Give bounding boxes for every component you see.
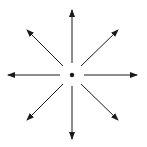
- center-point: [70, 73, 74, 77]
- arrow-up-left: [27, 30, 63, 66]
- radial-arrows-diagram: [0, 0, 147, 147]
- arrow-down-right: [81, 84, 118, 120]
- arrow-up-right: [81, 30, 118, 66]
- arrow-down-left: [27, 84, 63, 120]
